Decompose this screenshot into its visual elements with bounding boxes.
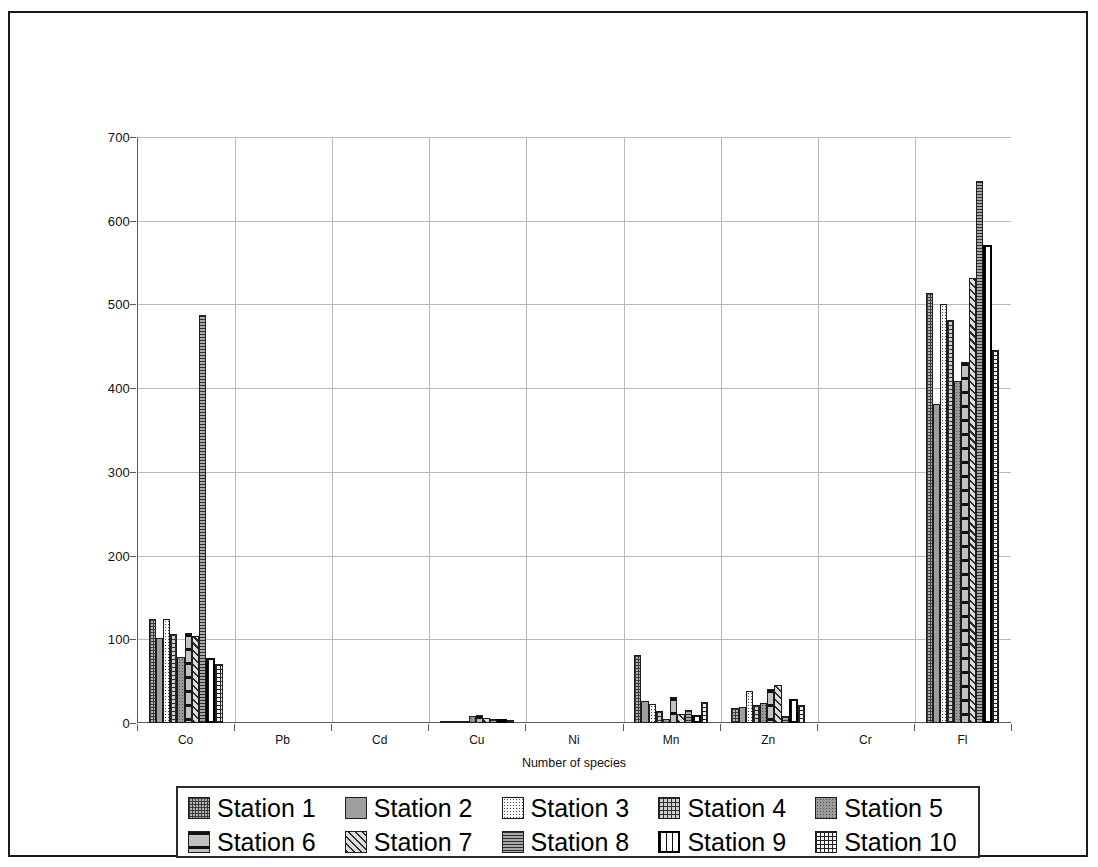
bar-zn-station-6[interactable] (767, 689, 774, 723)
legend-item-station-1[interactable]: Station 1 (188, 796, 345, 821)
bar-group-inner (246, 137, 320, 723)
y-axis-tick-label: 200 (108, 548, 130, 563)
bar-co-station-3[interactable] (163, 619, 170, 723)
bar-co-station-9[interactable] (206, 658, 215, 723)
x-axis-tick-mark (234, 724, 235, 731)
bar-mn-station-10[interactable] (701, 702, 708, 723)
bar-zn-station-9[interactable] (789, 699, 798, 723)
legend-swatch-icon (502, 797, 524, 819)
y-axis-tick-mark (130, 304, 136, 305)
x-axis-tick-label-ni: Ni (525, 724, 622, 750)
bar-mn-station-5[interactable] (663, 719, 670, 723)
bar-cu-station-6[interactable] (476, 715, 483, 723)
legend-item-station-10[interactable]: Station 10 (815, 830, 972, 855)
bar-cu-station-9[interactable] (497, 719, 506, 723)
bar-mn-station-8[interactable] (685, 710, 692, 723)
bar-fl-station-10[interactable] (992, 350, 999, 723)
legend-label: Station 4 (687, 796, 786, 821)
bar-cu-station-7[interactable] (483, 718, 490, 723)
y-axis-tick-label: 400 (108, 381, 130, 396)
bar-zn-station-8[interactable] (782, 716, 789, 723)
bar-group-cr (817, 137, 914, 723)
bar-mn-station-4[interactable] (656, 711, 663, 723)
legend-label: Station 10 (844, 830, 957, 855)
bar-mn-station-6[interactable] (670, 697, 677, 723)
bar-zn-station-1[interactable] (731, 708, 738, 723)
bar-group-cu (428, 137, 525, 723)
bar-co-station-5[interactable] (177, 657, 184, 723)
plot-area-wrapper (137, 137, 1011, 723)
y-axis-tick-mark (130, 723, 136, 724)
x-axis-tick-mark (817, 724, 818, 731)
bar-fl-station-1[interactable] (926, 293, 933, 723)
bar-fl-station-3[interactable] (940, 304, 947, 723)
bar-co-station-10[interactable] (215, 664, 222, 723)
bar-group-mn (623, 137, 720, 723)
bar-fl-station-8[interactable] (976, 181, 983, 723)
x-axis-tick-mark (428, 724, 429, 731)
y-axis-tick-label: 700 (108, 130, 130, 145)
bar-fl-station-7[interactable] (969, 278, 976, 723)
legend-item-station-2[interactable]: Station 2 (345, 796, 502, 821)
legend-swatch-icon (188, 831, 210, 853)
bar-mn-station-9[interactable] (692, 715, 701, 723)
x-axis-tick-label-co: Co (137, 724, 234, 750)
legend-swatch-icon (815, 831, 837, 853)
legend-swatch-icon (658, 831, 680, 853)
legend-label: Station 5 (844, 796, 943, 821)
x-axis-tick-mark (914, 724, 915, 731)
chart-legend: Station 1Station 2Station 3Station 4Stat… (176, 786, 980, 858)
bar-zn-station-2[interactable] (739, 707, 746, 723)
y-axis-tick-mark (130, 388, 136, 389)
bar-fl-station-6[interactable] (961, 362, 968, 723)
bar-fl-station-9[interactable] (983, 245, 992, 723)
x-axis-tick-mark (137, 724, 138, 731)
bar-zn-station-4[interactable] (753, 705, 760, 723)
bar-fl-station-2[interactable] (933, 404, 940, 723)
bar-zn-station-10[interactable] (798, 705, 805, 723)
legend-item-station-3[interactable]: Station 3 (502, 796, 659, 821)
legend-item-station-5[interactable]: Station 5 (815, 796, 972, 821)
y-axis-tick-mark (130, 472, 136, 473)
bar-mn-station-1[interactable] (634, 655, 641, 723)
bar-zn-station-5[interactable] (760, 703, 767, 723)
bar-zn-station-7[interactable] (774, 685, 781, 724)
legend-item-station-8[interactable]: Station 8 (502, 830, 659, 855)
legend-item-station-6[interactable]: Station 6 (188, 830, 345, 855)
bar-mn-station-2[interactable] (641, 701, 648, 723)
bar-mn-station-3[interactable] (649, 704, 656, 723)
legend-swatch-icon (815, 797, 837, 819)
legend-swatch-icon (345, 831, 367, 853)
bar-co-station-8[interactable] (199, 315, 206, 723)
y-axis-tick-label: 600 (108, 213, 130, 228)
bar-cu-station-1[interactable] (440, 721, 447, 724)
bar-cu-station-10[interactable] (507, 720, 514, 723)
legend-item-station-4[interactable]: Station 4 (658, 796, 815, 821)
x-axis-tick-mark (720, 724, 721, 731)
legend-item-station-9[interactable]: Station 9 (658, 830, 815, 855)
x-axis-tick-mark (623, 724, 624, 731)
x-axis-tick-mark (1011, 724, 1012, 731)
bar-cu-station-2[interactable] (447, 721, 454, 724)
bar-group-pb (234, 137, 331, 723)
bar-co-station-7[interactable] (192, 636, 199, 723)
bar-cu-station-4[interactable] (462, 721, 469, 723)
bar-co-station-2[interactable] (156, 638, 163, 723)
legend-label: Station 8 (531, 830, 630, 855)
bar-group-inner (149, 137, 223, 723)
bar-group-cd (331, 137, 428, 723)
bar-fl-station-4[interactable] (947, 320, 954, 723)
bar-group-fl (914, 137, 1011, 723)
bar-co-station-6[interactable] (185, 633, 192, 723)
bar-cu-station-5[interactable] (469, 716, 476, 723)
legend-item-station-7[interactable]: Station 7 (345, 830, 502, 855)
bar-mn-station-7[interactable] (677, 714, 684, 723)
bar-co-station-4[interactable] (170, 634, 177, 723)
bar-co-station-1[interactable] (149, 619, 156, 723)
bar-fl-station-5[interactable] (954, 381, 961, 723)
bar-cu-station-8[interactable] (490, 719, 497, 723)
bar-cu-station-3[interactable] (454, 721, 461, 723)
bar-zn-station-3[interactable] (746, 691, 753, 723)
x-axis-tick-label-cd: Cd (331, 724, 428, 750)
legend-swatch-icon (345, 797, 367, 819)
